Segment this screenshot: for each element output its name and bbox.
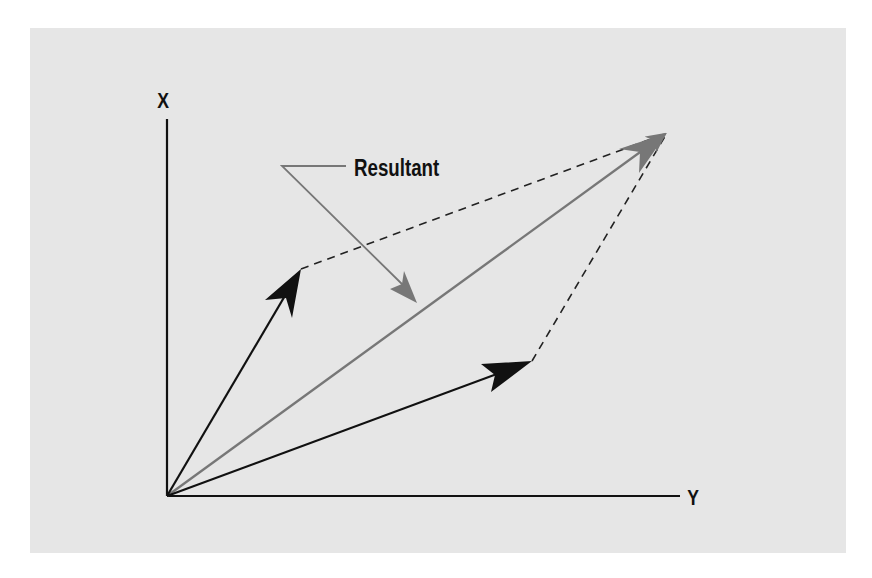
resultant-vector: [167, 134, 665, 496]
dashed-side-upper: [301, 133, 667, 269]
vector-a: [167, 277, 296, 496]
vector-diagram: X Y Resultant: [0, 0, 872, 578]
callout-label-resultant: Resultant: [354, 155, 439, 182]
resultant-arrowhead-icon: [619, 133, 667, 173]
vector-b: [167, 364, 524, 496]
dashed-side-right: [532, 133, 667, 361]
callout-leader: [282, 166, 405, 287]
axis-label-y: Y: [687, 485, 699, 509]
vector-a-arrowhead-icon: [265, 269, 301, 318]
axis-label-x: X: [157, 88, 169, 112]
